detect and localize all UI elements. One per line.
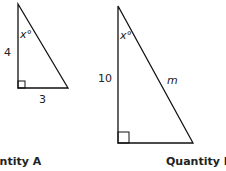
triangle-b: 10 m x° xyxy=(98,6,193,143)
quantity-a-label: Quantity A xyxy=(0,155,41,168)
diagram: 4 3 x° 10 m x° xyxy=(0,0,226,171)
triangle-a: 4 3 x° xyxy=(4,4,68,106)
side-a-horizontal: 3 xyxy=(39,93,46,106)
angle-a: x° xyxy=(19,28,32,41)
quantity-b-label: Quantity B xyxy=(166,155,226,168)
side-a-vertical: 4 xyxy=(4,46,11,59)
side-b-vertical: 10 xyxy=(98,72,112,85)
hypotenuse-b: m xyxy=(167,74,178,87)
angle-b: x° xyxy=(119,29,132,42)
